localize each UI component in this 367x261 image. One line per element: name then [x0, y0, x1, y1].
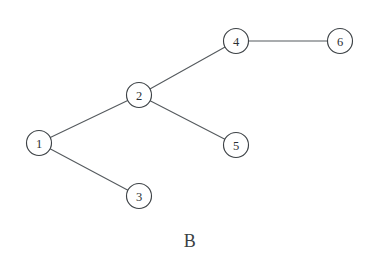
- graph-node-4[interactable]: 4: [224, 29, 249, 54]
- graph-edge-1-3: [50, 149, 128, 190]
- graph-node-2[interactable]: 2: [127, 83, 152, 108]
- graph-node-3[interactable]: 3: [127, 184, 152, 209]
- figure-root: 123456 B: [0, 0, 367, 261]
- figure-caption: B: [184, 231, 196, 251]
- graph-edge-1-2: [50, 100, 127, 137]
- node-layer: 123456: [27, 29, 353, 209]
- graph-node-label-4: 4: [233, 35, 240, 49]
- graph-diagram: 123456 B: [0, 0, 367, 261]
- graph-node-label-5: 5: [233, 139, 239, 153]
- graph-node-5[interactable]: 5: [224, 133, 249, 158]
- graph-node-1[interactable]: 1: [27, 131, 52, 156]
- graph-edge-2-5: [150, 101, 225, 140]
- graph-node-label-2: 2: [136, 89, 142, 103]
- edge-layer: [50, 41, 327, 190]
- graph-edge-2-4: [150, 47, 225, 89]
- graph-node-6[interactable]: 6: [328, 29, 353, 54]
- graph-node-label-6: 6: [337, 35, 343, 49]
- graph-node-label-3: 3: [136, 190, 142, 204]
- graph-node-label-1: 1: [36, 137, 42, 151]
